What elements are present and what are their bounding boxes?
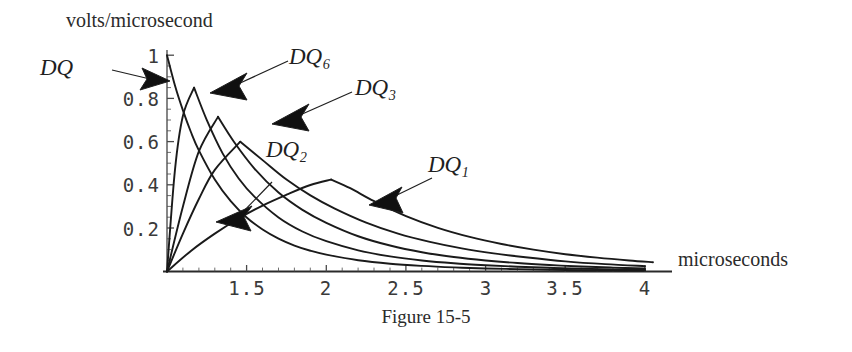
leader-dq1 (369, 178, 432, 213)
series-label-dq3: DQ3 (355, 75, 396, 101)
curve-dq3 (167, 117, 218, 272)
y-tick-label-08: 0.8 (98, 88, 160, 110)
x-tick-label-3: 3 (456, 277, 516, 299)
series-label-dq2-base: DQ (266, 137, 299, 162)
series-label-dq-text: DQ (40, 55, 73, 80)
figure-15-5: volts/microsecond microseconds 1 0.8 0.6… (0, 0, 852, 352)
x-axis-title: microseconds (678, 249, 788, 269)
y-tick-label-04: 0.4 (98, 174, 160, 196)
x-tick-label-2: 2 (296, 277, 356, 299)
series-label-dq1: DQ1 (428, 152, 469, 178)
y-tick-label-1: 1 (128, 45, 160, 67)
series-label-dq3-sub: 3 (389, 87, 396, 103)
x-tick-label-4: 4 (615, 277, 675, 299)
series-label-dq2: DQ2 (266, 137, 307, 163)
series-label-dq3-base: DQ (355, 75, 388, 100)
series-label-dq: DQ (40, 55, 73, 81)
x-tick-label-25: 2.5 (366, 277, 446, 299)
curve-dq1 (331, 180, 653, 263)
series-label-dq6-base: DQ (289, 44, 322, 69)
series-label-dq2-sub: 2 (300, 149, 307, 165)
leader-dq6 (210, 61, 288, 100)
y-tick-label-06: 0.6 (98, 131, 160, 153)
y-tick-label-02: 0.2 (98, 218, 160, 240)
figure-caption: Figure 15-5 (0, 306, 852, 328)
x-tick-label-15: 1.5 (207, 277, 287, 299)
curve-dq6 (194, 88, 645, 270)
series-label-dq6-sub: 6 (323, 56, 330, 72)
series-label-dq6: DQ6 (289, 44, 330, 70)
x-tick-label-35: 3.5 (525, 277, 605, 299)
series-label-dq1-sub: 1 (462, 164, 469, 180)
y-axis-title: volts/microsecond (66, 10, 213, 30)
leader-dq3 (272, 92, 352, 131)
leader-dq (112, 68, 170, 90)
series-label-dq1-base: DQ (428, 152, 461, 177)
